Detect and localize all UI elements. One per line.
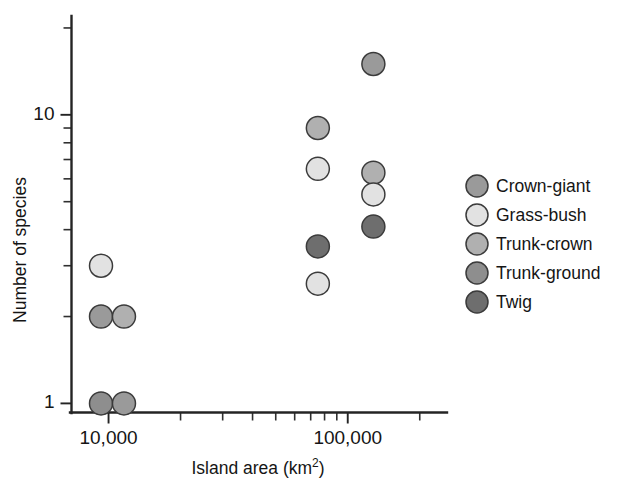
legend-label: Crown-giant bbox=[496, 176, 590, 196]
data-point-layer bbox=[90, 53, 385, 415]
y-tick-label: 10 bbox=[33, 103, 54, 124]
data-point bbox=[306, 157, 329, 180]
data-point bbox=[90, 254, 113, 277]
x-axis-title-base: Island area (km bbox=[191, 458, 312, 478]
plot-svg: 110 10,000100,000 Number of species Isla… bbox=[0, 0, 624, 497]
data-point bbox=[306, 272, 329, 295]
x-axis-tick-labels: 10,000100,000 bbox=[79, 427, 382, 448]
y-axis-title: Number of species bbox=[10, 177, 30, 323]
legend-swatch bbox=[466, 175, 488, 197]
data-point bbox=[90, 305, 113, 328]
x-axis-ticks bbox=[109, 413, 420, 424]
data-point bbox=[362, 161, 385, 184]
data-point bbox=[362, 53, 385, 76]
x-tick-label: 10,000 bbox=[79, 427, 137, 448]
legend-label: Trunk-crown bbox=[496, 234, 593, 254]
data-point bbox=[112, 392, 135, 415]
legend: Crown-giantGrass-bushTrunk-crownTrunk-gr… bbox=[466, 175, 600, 313]
data-point bbox=[362, 215, 385, 238]
y-axis-ticks bbox=[61, 28, 72, 403]
legend-label: Twig bbox=[496, 292, 532, 312]
data-point bbox=[306, 235, 329, 258]
legend-label: Grass-bush bbox=[496, 205, 586, 225]
x-axis-title: Island area (km2) bbox=[191, 456, 324, 478]
data-point bbox=[112, 305, 135, 328]
legend-swatch bbox=[466, 291, 488, 313]
data-point bbox=[90, 392, 113, 415]
legend-swatch bbox=[466, 204, 488, 226]
y-tick-label: 1 bbox=[44, 391, 55, 412]
scatter-plot-figure: 110 10,000100,000 Number of species Isla… bbox=[0, 0, 624, 497]
legend-swatch bbox=[466, 233, 488, 255]
x-axis-title-tail: ) bbox=[319, 458, 325, 478]
data-point bbox=[362, 183, 385, 206]
legend-label: Trunk-ground bbox=[496, 263, 600, 283]
y-axis-tick-labels: 110 bbox=[33, 103, 54, 413]
x-tick-label: 100,000 bbox=[313, 427, 382, 448]
data-point bbox=[306, 117, 329, 140]
legend-swatch bbox=[466, 262, 488, 284]
